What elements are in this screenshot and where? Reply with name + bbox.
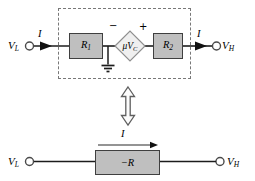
equivalence-arrow-icon [122, 87, 135, 125]
resistor-r2-label: R2 [163, 38, 173, 54]
terminal-bottom-left [26, 158, 34, 166]
terminal-top-left [26, 42, 34, 50]
vl-bottom-sub: L [15, 160, 19, 169]
top-input-voltage-label: VL [8, 39, 19, 55]
dependent-source-label: μVC [114, 41, 146, 54]
negative-resistor: −R [95, 150, 160, 175]
source-plus-sign: + [139, 22, 147, 32]
r2-sub: 2 [169, 43, 173, 52]
resistor-r1: R1 [69, 33, 103, 59]
r1-sub: 1 [87, 43, 91, 52]
source-minus-sign: − [109, 21, 117, 31]
vl-bottom-base: V [8, 155, 15, 167]
vh-top-base: V [222, 39, 229, 51]
vh-bottom-sub: H [234, 160, 239, 169]
i-bottom-text: I [121, 128, 125, 139]
vl-top-sub: L [15, 44, 19, 53]
terminal-top-right [213, 42, 221, 50]
negative-resistor-label: −R [121, 156, 135, 169]
negr-text: −R [121, 157, 135, 168]
bottom-current-arrowhead-icon [150, 142, 158, 148]
circuit-diagram: R1 R2 −R VL I − + μVC I VH I VL VH [0, 0, 255, 181]
terminal-bottom-right [216, 158, 224, 166]
current-arrowhead-right-icon [195, 42, 207, 51]
vh-bottom-base: V [227, 155, 234, 167]
source-base: μV [123, 41, 134, 51]
bottom-current-label: I [121, 127, 125, 140]
current-arrowhead-left-icon [40, 42, 52, 51]
resistor-r1-label: R1 [81, 38, 91, 54]
top-left-current-label: I [38, 27, 42, 40]
source-sub: C [133, 45, 137, 52]
vh-top-sub: H [229, 44, 234, 53]
plus-text: + [139, 21, 147, 32]
vl-top-base: V [8, 39, 15, 51]
i-right-text: I [197, 28, 201, 39]
i-left-text: I [38, 28, 42, 39]
minus-text: − [109, 20, 117, 31]
top-right-current-label: I [197, 27, 201, 40]
top-output-voltage-label: VH [222, 39, 234, 55]
bottom-output-voltage-label: VH [227, 155, 239, 171]
resistor-r2: R2 [153, 33, 183, 59]
bottom-input-voltage-label: VL [8, 155, 19, 171]
